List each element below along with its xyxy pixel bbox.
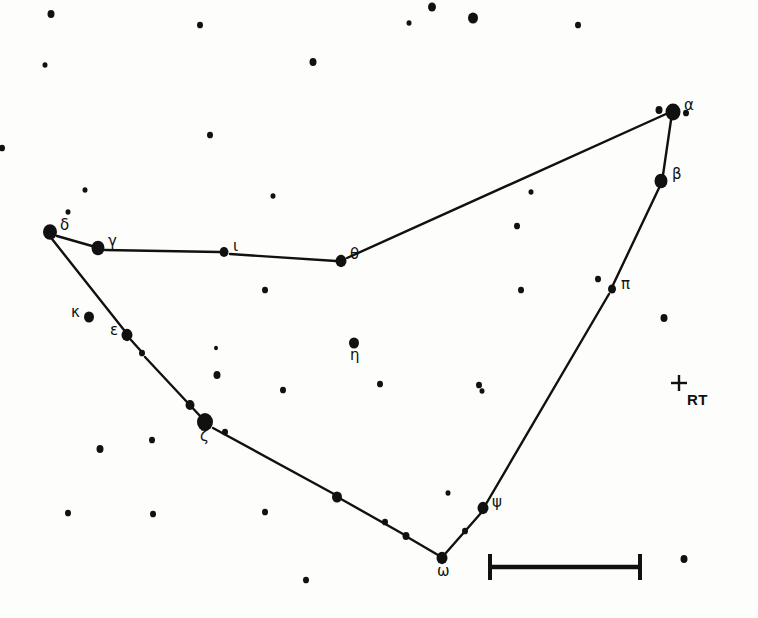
- field-star: [407, 20, 412, 26]
- field-star: [262, 287, 268, 294]
- constellation-line: [347, 114, 666, 258]
- sky-canvas: [0, 0, 758, 618]
- field-star: [480, 388, 485, 394]
- field-star: [514, 223, 520, 230]
- star-label-theta: θ: [350, 247, 359, 262]
- line-star: [139, 350, 145, 357]
- named-star-kappa: [84, 311, 94, 322]
- variable-star-label-rt: RT: [687, 391, 708, 408]
- star-label-pi: π: [621, 277, 630, 292]
- field-star: [595, 276, 601, 283]
- star-label-delta: δ: [60, 218, 69, 233]
- line-star-layer: [139, 106, 663, 540]
- named-star-epsilon: [122, 329, 133, 341]
- scale-bar-layer: [490, 554, 640, 580]
- star-label-kappa: κ: [71, 305, 80, 320]
- named-star-alpha: [666, 104, 681, 121]
- field-star: [428, 3, 436, 12]
- star-label-zeta: ζ: [200, 429, 208, 444]
- star-label-alpha: α: [684, 98, 694, 113]
- field-star: [280, 387, 286, 394]
- field-star: [83, 187, 88, 193]
- field-star: [48, 10, 55, 18]
- named-star-iota: [220, 247, 229, 257]
- star-label-beta: β: [672, 167, 682, 182]
- line-star: [332, 491, 342, 502]
- field-star: [214, 371, 221, 379]
- field-star: [518, 287, 524, 294]
- star-label-psi: ψ: [492, 495, 502, 510]
- variable-star-marker-layer: [671, 375, 687, 391]
- line-star: [403, 532, 410, 540]
- field-star: [377, 381, 383, 388]
- named-star-psi: [478, 502, 489, 514]
- constellation-line: [613, 188, 659, 285]
- star-label-iota: ι: [233, 239, 238, 254]
- field-star: [214, 346, 218, 350]
- line-star: [462, 528, 468, 535]
- field-star: [0, 145, 5, 152]
- field-star: [222, 429, 228, 436]
- field-star: [681, 555, 688, 563]
- field-star: [575, 22, 581, 29]
- star-label-epsilon: ε: [110, 323, 118, 338]
- field-star: [271, 193, 276, 199]
- field-star: [150, 511, 156, 518]
- field-star: [310, 58, 317, 66]
- field-star: [65, 510, 71, 517]
- named-star-theta: [336, 255, 347, 267]
- field-star: [303, 577, 309, 584]
- named-star-gamma: [92, 241, 105, 256]
- named-star-beta: [655, 174, 668, 189]
- field-star: [382, 519, 388, 526]
- field-star: [43, 62, 48, 68]
- named-star-pi: [608, 285, 616, 294]
- line-star: [529, 189, 534, 195]
- field-star: [66, 209, 71, 215]
- star-label-eta: η: [350, 348, 360, 363]
- field-star-layer: [0, 3, 689, 584]
- constellation-line: [57, 236, 92, 246]
- constellation-line: [486, 294, 609, 504]
- line-star: [656, 106, 663, 114]
- star-label-omega: ω: [437, 564, 450, 579]
- field-star: [661, 314, 668, 322]
- field-star: [149, 437, 155, 444]
- field-star: [468, 12, 478, 23]
- field-star: [97, 445, 104, 453]
- line-star: [186, 400, 195, 410]
- field-star: [476, 382, 482, 389]
- star-chart: αβγδεζηθικπψωRT: [0, 0, 758, 618]
- constellation-line: [341, 499, 403, 534]
- named-star-delta: [43, 224, 57, 240]
- constellation-line: [663, 120, 671, 175]
- star-label-gamma: γ: [108, 234, 117, 249]
- field-star: [262, 509, 268, 516]
- constellation-line: [230, 254, 336, 261]
- field-star: [207, 132, 213, 139]
- constellation-line: [105, 250, 219, 252]
- constellation-line: [213, 428, 334, 494]
- field-star: [446, 490, 451, 496]
- field-star: [197, 22, 203, 29]
- constellation-line-layer: [52, 114, 671, 555]
- constellation-line: [131, 340, 140, 350]
- constellation-line: [409, 538, 438, 555]
